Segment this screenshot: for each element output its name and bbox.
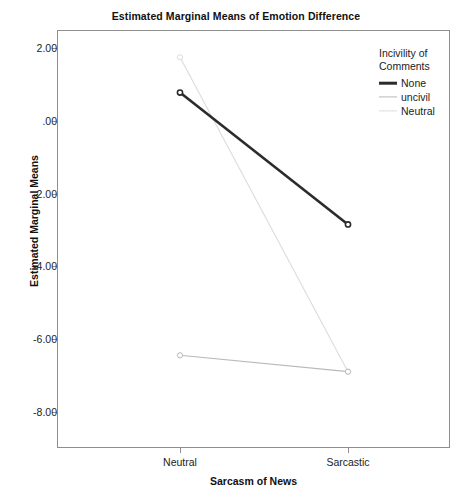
series-line xyxy=(180,57,348,371)
series-line xyxy=(180,93,348,225)
legend-title-line-2: Comments xyxy=(379,60,465,73)
y-tick-label: -8.00 xyxy=(11,406,57,418)
legend-item[interactable]: uncivil xyxy=(379,90,465,104)
legend-label: uncivil xyxy=(401,91,430,103)
legend-item[interactable]: None xyxy=(379,76,465,90)
legend-label: Neutral xyxy=(401,105,435,117)
legend-swatch-none xyxy=(379,78,397,88)
y-tick-label: 2.00 xyxy=(11,42,57,54)
legend-title-line-1: Incivility of xyxy=(379,47,465,60)
legend-swatch-neutral xyxy=(379,106,397,116)
legend-swatch-uncivil xyxy=(379,92,397,102)
data-point-marker xyxy=(177,55,182,60)
y-tick-label: -6.00 xyxy=(11,333,57,345)
legend: Incivility of Comments NoneuncivilNeutra… xyxy=(379,47,465,118)
data-point-marker xyxy=(177,353,182,358)
data-point-marker xyxy=(345,222,350,227)
y-axis-title: Estimated Marginal Means xyxy=(28,121,40,321)
data-point-marker xyxy=(345,369,350,374)
profile-plot: Estimated Marginal Means of Emotion Diff… xyxy=(0,0,472,503)
legend-item[interactable]: Neutral xyxy=(379,104,465,118)
series-line xyxy=(180,355,348,371)
legend-items: NoneuncivilNeutral xyxy=(379,76,465,118)
x-tick-label: Neutral xyxy=(120,456,240,468)
chart-title: Estimated Marginal Means of Emotion Diff… xyxy=(0,10,472,22)
data-point-marker xyxy=(177,90,182,95)
x-tick-mark xyxy=(348,448,349,453)
legend-title: Incivility of Comments xyxy=(379,47,465,73)
x-tick-mark xyxy=(180,448,181,453)
x-axis-title: Sarcasm of News xyxy=(57,475,450,487)
legend-label: None xyxy=(401,77,426,89)
x-tick-label: Sarcastic xyxy=(288,456,408,468)
